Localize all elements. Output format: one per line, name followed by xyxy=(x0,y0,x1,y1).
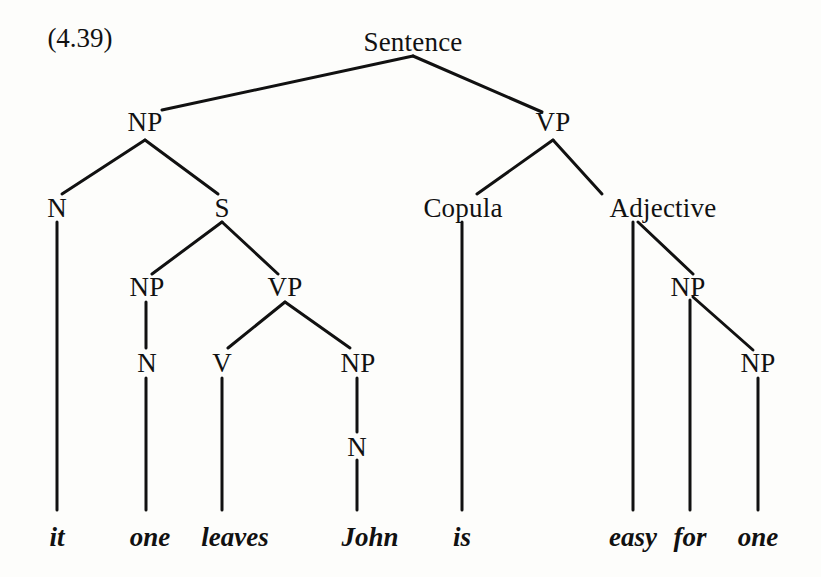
tree-node-copula: Copula xyxy=(423,195,502,222)
tree-leaf-word-one-2: one xyxy=(738,524,779,551)
tree-edge-vp-embed-to-np-john xyxy=(285,302,350,348)
tree-node-np-one: NP xyxy=(130,274,165,301)
tree-edge-adjective-to-np-for xyxy=(638,222,693,274)
tree-node-vp-embed: VP xyxy=(268,274,303,301)
tree-edge-vp-top-to-adjective xyxy=(553,140,602,194)
tree-edge-s-embed-to-np-one xyxy=(152,222,222,274)
tree-leaf-word-john: John xyxy=(341,524,398,551)
tree-node-adjective: Adjective xyxy=(610,195,717,222)
tree-edge-np-top-to-n-it xyxy=(62,140,145,194)
tree-node-s-embed: S xyxy=(214,195,229,222)
tree-node-sentence: Sentence xyxy=(363,29,462,56)
tree-leaf-word-is: is xyxy=(453,524,471,551)
example-number-label: (4.39) xyxy=(47,25,112,52)
tree-edge-vp-embed-to-v-leaves xyxy=(228,302,285,348)
tree-edge-sentence-to-vp-top xyxy=(413,56,542,112)
tree-node-n-one: N xyxy=(137,350,157,377)
tree-leaf-word-one-1: one xyxy=(130,524,171,551)
tree-node-np-john: NP xyxy=(341,350,376,377)
tree-edge-s-embed-to-vp-embed xyxy=(222,222,278,274)
tree-leaf-word-easy: easy xyxy=(609,524,657,551)
tree-edge-sentence-to-np-top xyxy=(162,56,413,110)
figure-canvas: (4.39) SentenceNPVPNSCopulaAdjectiveNPVP… xyxy=(0,0,821,577)
tree-edge-vp-top-to-copula xyxy=(477,140,553,194)
tree-node-np-top: NP xyxy=(128,109,163,136)
tree-node-n-it: N xyxy=(47,195,67,222)
tree-node-v-leaves: V xyxy=(212,350,232,377)
tree-leaf-word-it: it xyxy=(49,524,64,551)
tree-edge-np-top-to-s-embed xyxy=(145,140,218,194)
tree-node-n-john: N xyxy=(347,434,367,461)
tree-node-np-for: NP xyxy=(671,274,706,301)
tree-leaf-word-for: for xyxy=(674,524,707,551)
tree-node-vp-top: VP xyxy=(536,109,571,136)
tree-node-np-oneobj: NP xyxy=(741,350,776,377)
tree-edge-np-for-to-np-oneobj xyxy=(693,297,753,350)
tree-leaf-word-leaves: leaves xyxy=(201,524,268,551)
